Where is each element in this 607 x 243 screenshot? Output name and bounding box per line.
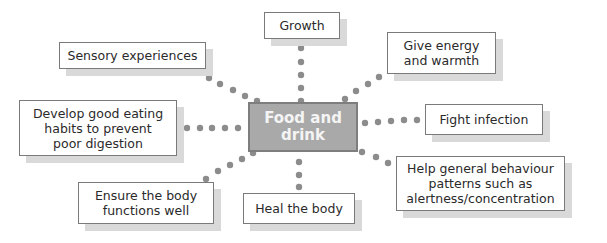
node-develop-habits: Develop good eating habits to prevent po… <box>19 100 177 156</box>
central-topic-food-and-drink: Food and drink <box>248 102 358 152</box>
food-and-drink-mind-map: Food and drink Growth Give energy and wa… <box>0 0 607 243</box>
node-growth: Growth <box>264 12 340 39</box>
node-give-energy: Give energy and warmth <box>387 32 496 74</box>
node-heal-body: Heal the body <box>243 193 355 224</box>
node-ensure-body: Ensure the body functions well <box>78 182 214 224</box>
node-help-behaviour: Help general behaviour patterns such as … <box>396 156 565 211</box>
node-fight-infection: Fight infection <box>425 104 543 135</box>
node-sensory-experiences: Sensory experiences <box>59 42 206 69</box>
